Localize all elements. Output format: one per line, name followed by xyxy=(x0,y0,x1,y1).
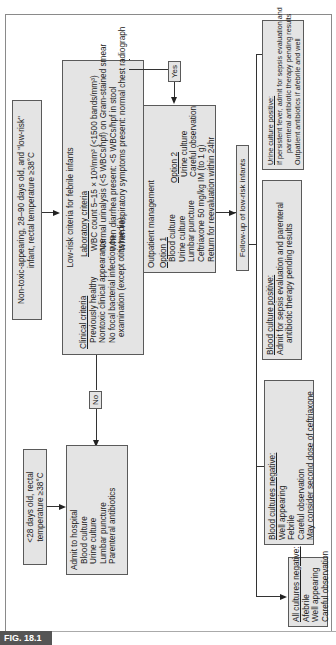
option-2-item: Careful observation xyxy=(189,106,199,183)
urine-positive-heading: Urine culture positive: xyxy=(266,25,275,165)
all-negative-item: Well appearing xyxy=(311,562,321,622)
outpatient-title: Outpatient management xyxy=(147,110,157,268)
arrow-head xyxy=(59,504,66,510)
arrow-head xyxy=(171,97,177,104)
connector-followup-down xyxy=(249,244,256,245)
arrow-head xyxy=(229,210,236,216)
entry-text-1: Non-toxic-appearing, 28–90 days old, and… xyxy=(17,105,27,315)
blood-negative-item: Well appearing xyxy=(278,385,288,540)
decision-no-tag: No xyxy=(89,391,102,409)
connector-distribution-bar xyxy=(256,55,257,597)
urine-positive-item: Outpatient antibiotics if afebrile and w… xyxy=(293,25,302,165)
lab-item: Normal urinalysis (<5 WBCs/hpf) on Gram-… xyxy=(99,27,109,257)
flowchart-canvas: Non-toxic-appearing, 28–90 days old, and… xyxy=(0,0,336,645)
followup-box: Follow-up of low-risk infants xyxy=(236,145,249,271)
blood-positive-item: antibiotic therapy pending results xyxy=(285,185,295,355)
admit-item: Lumbar puncture xyxy=(99,450,109,570)
admit-item: Admit to hospital xyxy=(70,450,80,570)
urine-positive-item: parenteral antibiotic therapy pending re… xyxy=(284,25,293,165)
decision-yes-tag: Yes xyxy=(168,61,181,82)
option-2-group: Option 2 Urine culture Careful observati… xyxy=(170,106,199,183)
lab-item: WBC count 5–15 × 10³/mm³ (<1500 bands/mm… xyxy=(90,27,100,257)
option-1-heading: Option 1 xyxy=(159,137,169,268)
all-negative-item: Careful observation xyxy=(321,562,331,622)
connector-criteria-yes xyxy=(129,59,130,60)
figure-rule xyxy=(52,631,336,632)
lab-item: When diarrhea present: <5 WBCs/hpf in st… xyxy=(109,27,119,257)
all-cultures-negative-box: All cultures negative: Afebrile Well app… xyxy=(288,557,328,627)
option-2-heading: Option 2 xyxy=(170,106,180,183)
urine-culture-positive-box: Urine culture positive: If persistent fe… xyxy=(262,20,304,170)
neonate-entry-box: <28 days old, rectal temperature ≥38°C xyxy=(23,449,47,565)
connector-yes-left xyxy=(174,82,175,97)
admit-item: Blood culture xyxy=(80,450,90,570)
connector-to-blood-positive xyxy=(256,244,257,245)
connector-no-admit xyxy=(96,409,97,442)
admit-box: Admit to hospital Blood culture Urine cu… xyxy=(66,445,128,575)
neonate-text-1: <28 days old, rectal xyxy=(26,454,36,560)
blood-negative-item: Febrile xyxy=(287,385,297,540)
blood-cultures-negative-box: Blood cultures negative: Well appearing … xyxy=(264,380,314,545)
low-risk-entry-box: Non-toxic-appearing, 28–90 days old, and… xyxy=(12,100,42,320)
all-negative-heading: All cultures negative: xyxy=(292,562,302,622)
connector-yes-outpatient xyxy=(179,81,180,82)
lab-item: When respiratory symptoms present: norma… xyxy=(118,27,128,257)
blood-negative-item: May consider second dose of ceftriaxone xyxy=(306,385,316,540)
connector-criteria-no xyxy=(96,355,97,390)
criteria-title: Low-risk criteria for febrile infants xyxy=(66,65,76,350)
entry-text-2: infant, rectal temperature ≥38°C xyxy=(27,105,37,315)
figure-label: FIG. 18.1 xyxy=(0,631,52,645)
option-2-item: Urine culture xyxy=(180,106,190,183)
option-1-item: Return for reevaluation within 24hr xyxy=(207,137,217,268)
admit-item: Urine culture xyxy=(89,450,99,570)
blood-positive-item: Admit for sepsis evaluation and parenter… xyxy=(276,185,286,355)
arrow-head xyxy=(280,594,287,600)
all-negative-item: Afebrile xyxy=(302,562,312,622)
blood-positive-heading: Blood culture positive: xyxy=(266,185,276,355)
blood-culture-positive-box: Blood culture positive: Admit for sepsis… xyxy=(262,180,302,360)
arrow-head xyxy=(53,210,60,216)
laboratory-heading: Laboratory criteria xyxy=(80,27,90,257)
neonate-text-2: temperature ≥38°C xyxy=(36,454,46,560)
laboratory-criteria-group: Laboratory criteria WBC count 5–15 × 10³… xyxy=(80,27,128,257)
urine-positive-item: If persistent fever, admit for sepsis ev… xyxy=(275,25,284,165)
blood-negative-heading: Blood cultures negative: xyxy=(268,385,278,540)
connector-criteria-yes-down xyxy=(129,69,168,70)
blood-negative-item: Careful observation xyxy=(297,385,307,540)
admit-item: Parenteral antibiotics xyxy=(108,450,118,570)
